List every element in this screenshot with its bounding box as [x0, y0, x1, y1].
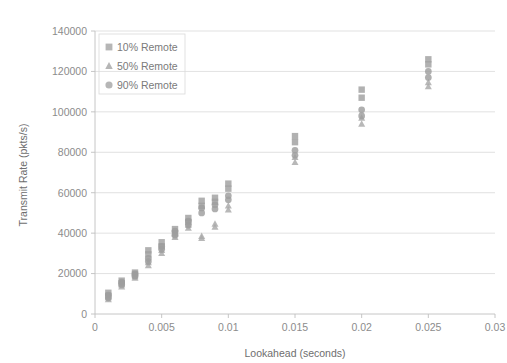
y-axis-title: Transmit Rate (pkts/s) — [17, 124, 29, 227]
y-tick-label: 20000 — [58, 267, 87, 279]
y-tick-label: 0 — [81, 308, 87, 320]
data-point-circle — [118, 281, 125, 288]
data-point-circle — [132, 273, 139, 280]
data-point-square — [425, 61, 431, 67]
data-points — [105, 56, 432, 302]
data-point-circle — [145, 258, 152, 265]
data-point-circle — [212, 206, 219, 213]
scatter-chart: 020000400006000080000100000120000140000 … — [0, 0, 507, 363]
data-point-square — [358, 86, 364, 92]
y-tick-label: 40000 — [58, 227, 87, 239]
data-point-square — [292, 133, 298, 139]
data-point-circle — [172, 232, 179, 239]
data-point-circle — [425, 68, 432, 75]
y-tick-label: 60000 — [58, 187, 87, 199]
y-axis-tick-labels: 020000400006000080000100000120000140000 — [52, 25, 87, 320]
data-point-circle — [198, 210, 205, 217]
data-point-circle — [225, 196, 232, 203]
data-point-circle — [425, 74, 432, 81]
data-point-circle — [358, 113, 365, 120]
y-tick-label: 120000 — [52, 65, 87, 77]
y-tick-label: 140000 — [52, 25, 87, 37]
data-point-square — [292, 139, 298, 145]
x-tick-label: 0.015 — [282, 321, 308, 333]
data-point-circle — [292, 152, 299, 159]
data-point-square — [358, 95, 364, 101]
data-point-circle — [105, 81, 112, 88]
x-axis-tick-labels: 00.0050.010.0150.020.0250.03 — [92, 321, 505, 333]
legend-item-label[interactable]: 10% Remote — [117, 41, 178, 53]
data-point-circle — [358, 106, 365, 113]
data-point-square — [225, 185, 231, 191]
data-point-triangle — [105, 62, 112, 69]
x-tick-label: 0.005 — [149, 321, 175, 333]
x-tick-label: 0.03 — [485, 321, 506, 333]
x-tick-label: 0.025 — [415, 321, 441, 333]
y-tick-label: 80000 — [58, 146, 87, 158]
data-point-square — [106, 44, 113, 51]
legend-item-label[interactable]: 50% Remote — [117, 60, 178, 72]
y-tick-label: 100000 — [52, 106, 87, 118]
legend-item-label[interactable]: 90% Remote — [117, 79, 178, 91]
x-tick-label: 0 — [92, 321, 98, 333]
x-axis-title: Lookahead (seconds) — [245, 347, 346, 359]
legend[interactable]: 10% Remote50% Remote90% Remote — [99, 34, 185, 94]
data-point-circle — [105, 294, 112, 301]
data-point-triangle — [358, 120, 365, 126]
x-tick-label: 0.02 — [351, 321, 372, 333]
data-point-circle — [185, 222, 192, 229]
axis-lines — [91, 31, 495, 318]
data-point-circle — [158, 246, 165, 253]
chart-canvas: 020000400006000080000100000120000140000 … — [0, 0, 507, 363]
x-tick-label: 0.01 — [218, 321, 239, 333]
